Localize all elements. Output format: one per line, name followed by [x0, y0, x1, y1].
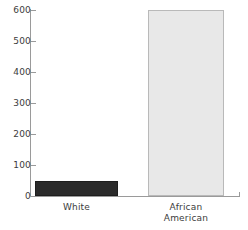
y-tick-label-500: 500 — [5, 37, 31, 46]
y-tick-100 — [31, 165, 36, 166]
x-label-white-line1: White — [35, 202, 118, 213]
bar-white — [35, 181, 118, 196]
x-label-white: White — [35, 202, 118, 213]
x-axis-end-tick — [239, 192, 240, 197]
bar-african-american — [148, 10, 224, 196]
y-tick-400 — [31, 72, 36, 73]
y-tick-300 — [31, 103, 36, 104]
x-label-african-american-line2: American — [148, 213, 224, 224]
y-tick-label-200: 200 — [5, 130, 31, 139]
y-tick-label-100: 100 — [5, 161, 31, 170]
y-tick-label-400: 400 — [5, 68, 31, 77]
y-tick-500 — [31, 41, 36, 42]
y-tick-600 — [31, 10, 36, 11]
x-label-african-american-line1: African — [148, 202, 224, 213]
bar-chart: 0 100 200 300 400 500 600 White African … — [0, 0, 248, 230]
y-tick-label-300: 300 — [5, 99, 31, 108]
x-axis-line — [30, 196, 240, 197]
y-tick-label-600: 600 — [5, 6, 31, 15]
x-label-african-american: African American — [148, 202, 224, 224]
y-tick-label-0: 0 — [5, 192, 31, 201]
y-tick-200 — [31, 134, 36, 135]
